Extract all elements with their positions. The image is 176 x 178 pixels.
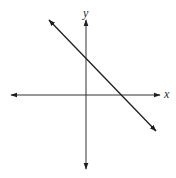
y-axis-label: y: [83, 7, 88, 19]
coordinate-plane-figure: y x: [0, 0, 176, 178]
x-axis-label: x: [164, 88, 169, 100]
coordinate-plane-svg: [0, 0, 176, 178]
graphed-line: [49, 20, 156, 131]
